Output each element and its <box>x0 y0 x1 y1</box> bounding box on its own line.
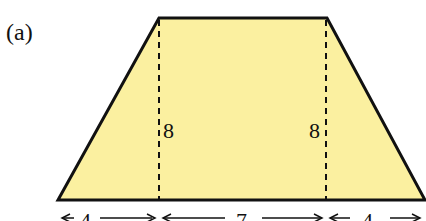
height-label-right: 8 <box>309 118 320 143</box>
base-label-middle: 7 <box>236 208 247 221</box>
base-label-left: 4 <box>80 208 91 221</box>
trapezoid-shape <box>58 18 425 200</box>
base-label-right: 4 <box>362 208 373 221</box>
part-label: (a) <box>6 19 33 45</box>
trapezoid-diagram: (a) 8 8 4 7 4 <box>0 0 426 221</box>
height-label-left: 8 <box>163 118 174 143</box>
